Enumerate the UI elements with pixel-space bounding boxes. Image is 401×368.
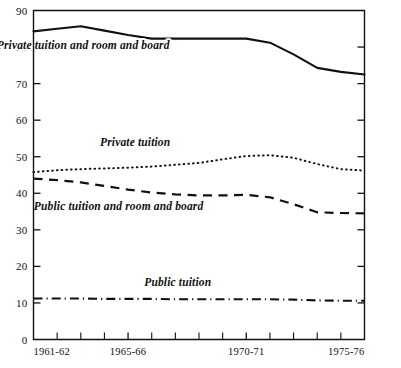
- y-tick-label-0: 0: [22, 334, 28, 346]
- x-tick-label-1965-66: 1965-66: [110, 346, 146, 357]
- series-label-0: Private tuition and room and board: [0, 39, 170, 51]
- chart-background: [0, 0, 401, 368]
- chart-container: 0102030405060708090 1961-621965-661970-7…: [0, 0, 401, 368]
- y-tick-label-60: 60: [16, 114, 28, 126]
- y-tick-label-20: 20: [16, 260, 28, 272]
- y-tick-label-30: 30: [16, 224, 28, 236]
- x-tick-label-1975-76: 1975-76: [328, 346, 364, 357]
- y-tick-label-10: 10: [16, 297, 28, 309]
- x-tick-label-1961-62: 1961-62: [34, 346, 70, 357]
- y-tick-label-90: 90: [16, 5, 28, 17]
- x-tick-label-1970-71: 1970-71: [228, 346, 264, 357]
- y-tick-label-40: 40: [16, 187, 28, 199]
- line-chart: 0102030405060708090 1961-621965-661970-7…: [0, 0, 401, 368]
- series-label-1: Private tuition: [100, 136, 170, 148]
- series-label-2: Public tuition and room and board: [34, 200, 204, 212]
- y-tick-label-70: 70: [16, 78, 28, 90]
- y-tick-label-50: 50: [16, 151, 28, 163]
- series-label-3: Public tuition: [144, 276, 211, 288]
